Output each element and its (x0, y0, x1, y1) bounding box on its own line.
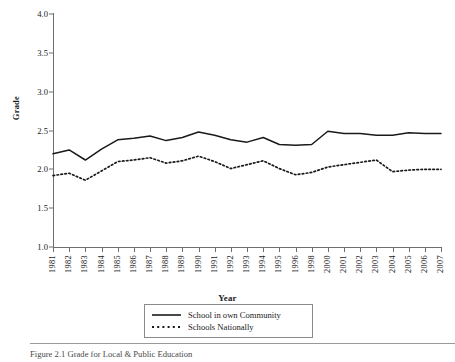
x-tick-label: 1992 (227, 255, 235, 273)
legend-item-school-in-own-community: School in own Community (152, 309, 304, 321)
x-tick-label: 2002 (356, 255, 364, 273)
x-tick-label: 1987 (146, 255, 154, 273)
dotted-line-icon (152, 323, 181, 331)
x-tick-mark (263, 248, 264, 252)
x-tick-mark (118, 248, 119, 252)
x-tick-mark (425, 248, 426, 252)
legend: School in own Community Schools National… (144, 304, 313, 338)
x-tick-label: 1993 (243, 255, 251, 273)
x-tick-mark (182, 248, 183, 252)
series-lines (53, 14, 442, 247)
x-tick-mark (53, 248, 54, 252)
x-tick-label: 1982 (65, 255, 73, 273)
x-tick-mark (328, 248, 329, 252)
y-tick-label: 4.0 (37, 10, 48, 19)
x-tick-mark (215, 248, 216, 252)
x-tick-mark (69, 248, 70, 252)
legend-label: Schools Nationally (188, 323, 254, 332)
footer-caption-clip: Figure 2.1 Grade for Local & Public Educ… (30, 351, 455, 362)
y-tick-label: 1.5 (37, 204, 48, 213)
legend-item-schools-nationally: Schools Nationally (152, 321, 304, 333)
x-tick-label: 2006 (421, 255, 429, 273)
x-tick-label: 2004 (388, 255, 396, 273)
x-tick-mark (279, 248, 280, 252)
x-tick-label: 1988 (162, 255, 170, 273)
x-tick-mark (344, 248, 345, 252)
y-tick-label: 2.0 (37, 165, 48, 174)
plot-area: 1.01.52.02.53.03.54.0 (53, 14, 442, 247)
x-axis-title: Year (0, 293, 455, 303)
x-tick-label: 1994 (259, 255, 267, 273)
y-tick-label: 1.0 (37, 243, 48, 252)
x-tick-mark (312, 248, 313, 252)
x-tick-label: 1985 (113, 255, 121, 273)
x-tick-mark (296, 248, 297, 252)
y-axis-title: Grade (12, 96, 26, 120)
x-tick-label: 1984 (97, 255, 105, 273)
x-tick-label: 1989 (178, 255, 186, 273)
x-tick-label: 1995 (275, 255, 283, 273)
x-tick-mark (441, 248, 442, 252)
line-school-in-own-community (53, 131, 441, 160)
x-tick-label: 1990 (194, 255, 202, 273)
x-tick-mark (393, 248, 394, 252)
y-tick-label: 3.0 (37, 87, 48, 96)
solid-line-icon (152, 311, 181, 319)
x-tick-mark (360, 248, 361, 252)
x-tick-mark (150, 248, 151, 252)
x-tick-label: 2000 (324, 255, 332, 273)
x-tick-label: 1991 (210, 255, 218, 273)
x-tick-label: 2001 (340, 255, 348, 273)
x-tick-label: 1996 (291, 255, 299, 273)
x-tick-mark (134, 248, 135, 252)
x-tick-label: 1981 (49, 255, 57, 273)
y-tick-label: 3.5 (37, 49, 48, 58)
x-tick-label: 2003 (372, 255, 380, 273)
x-tick-label: 1986 (130, 255, 138, 273)
legend-label: School in own Community (188, 311, 281, 320)
y-tick-label: 2.5 (37, 126, 48, 135)
x-tick-label: 2005 (404, 255, 412, 273)
x-axis-ticks: 1981198219831984198519861987198819891990… (53, 248, 442, 294)
x-tick-mark (247, 248, 248, 252)
figure-chart-grade-by-year: Grade 1.01.52.02.53.03.54.0 198119821983… (0, 0, 455, 362)
x-tick-mark (231, 248, 232, 252)
x-tick-label: 1983 (81, 255, 89, 273)
line-schools-nationally (53, 156, 441, 180)
x-tick-label: 1998 (307, 255, 315, 273)
x-tick-label: 2007 (437, 255, 445, 273)
x-tick-mark (376, 248, 377, 252)
x-tick-mark (409, 248, 410, 252)
x-tick-mark (199, 248, 200, 252)
x-tick-mark (85, 248, 86, 252)
footer-caption: Figure 2.1 Grade for Local & Public Educ… (30, 351, 192, 359)
footer-divider (30, 343, 455, 344)
x-tick-mark (166, 248, 167, 252)
x-tick-mark (102, 248, 103, 252)
